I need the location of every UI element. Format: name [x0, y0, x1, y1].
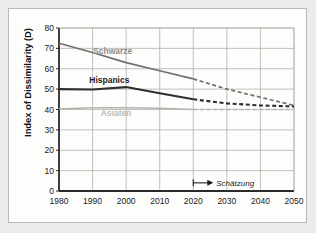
x-tick-labels: 19801990200020102020203020402050 — [50, 196, 304, 206]
svg-text:60: 60 — [45, 64, 55, 74]
svg-text:20: 20 — [45, 145, 55, 155]
svg-text:70: 70 — [45, 43, 55, 53]
svg-text:10: 10 — [45, 166, 55, 176]
svg-text:0: 0 — [49, 186, 54, 196]
chart-plot-area: 80706050403020100 1980199020002010202020… — [9, 9, 308, 224]
svg-text:1980: 1980 — [50, 196, 69, 206]
svg-text:30: 30 — [45, 125, 55, 135]
svg-text:Hispanics: Hispanics — [89, 75, 129, 85]
svg-text:2030: 2030 — [217, 196, 236, 206]
chart-card: Index of Dissimilarity (D) 8070605040302… — [8, 8, 307, 223]
svg-text:Schwarze: Schwarze — [93, 46, 132, 56]
svg-text:50: 50 — [45, 84, 55, 94]
line-chart-svg: 80706050403020100 1980199020002010202020… — [9, 9, 308, 224]
estimate-annotation: Schätzung — [193, 179, 254, 188]
svg-text:2040: 2040 — [251, 196, 270, 206]
svg-text:40: 40 — [45, 105, 55, 115]
svg-text:2000: 2000 — [117, 196, 136, 206]
svg-text:2020: 2020 — [184, 196, 203, 206]
svg-text:2050: 2050 — [285, 196, 304, 206]
svg-text:80: 80 — [45, 23, 55, 33]
svg-text:Schätzung: Schätzung — [216, 179, 254, 188]
svg-text:2010: 2010 — [150, 196, 169, 206]
svg-text:1990: 1990 — [83, 196, 102, 206]
y-tick-labels: 80706050403020100 — [45, 23, 59, 196]
svg-text:Asiaten: Asiaten — [101, 108, 132, 118]
